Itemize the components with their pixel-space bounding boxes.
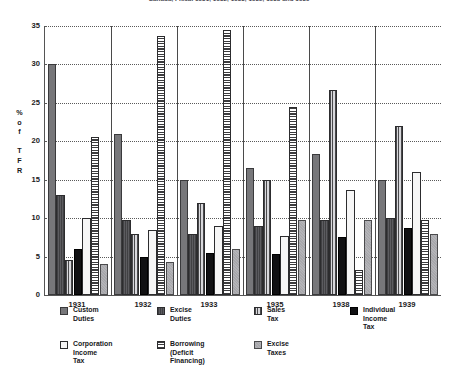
legend-label: Borrowing (Deficit Financing) [170, 340, 205, 366]
bar [289, 107, 297, 295]
bar [100, 264, 108, 295]
bar [131, 234, 139, 295]
bar-group [309, 26, 375, 295]
legend-label: Corporation Income Tax [73, 340, 112, 366]
y-axis-tick-label: 5 [20, 253, 40, 260]
bar [74, 249, 82, 295]
y-axis-label-char: f [14, 127, 25, 137]
bar-group [111, 26, 177, 295]
bar [378, 180, 386, 295]
bar [280, 236, 288, 295]
bar [329, 90, 337, 295]
bar [140, 257, 148, 295]
bar-group [243, 26, 309, 295]
bar [56, 195, 64, 295]
legend-label: Individual Income Tax [363, 306, 395, 332]
bar [395, 126, 403, 295]
bar [114, 134, 122, 295]
bar [122, 220, 130, 295]
bar [254, 226, 262, 295]
bar [263, 180, 271, 295]
y-axis-label-char: o [14, 118, 25, 128]
bar [157, 36, 165, 295]
bar [188, 234, 196, 295]
legend-swatch [60, 341, 68, 349]
legend-row-primary: Custom DutiesExcise DutiesSales TaxIndiv… [60, 306, 452, 328]
legend-swatch [254, 307, 262, 315]
bar [223, 30, 231, 295]
legend-label: Excise Duties [170, 306, 192, 323]
y-axis-tick-label: 20 [20, 137, 40, 144]
chart-title: Canada, Fiscal 1931, 1932, 1933, 1935, 1… [0, 0, 458, 2]
legend-swatch [254, 341, 262, 349]
legend-swatch [350, 307, 358, 315]
y-axis-tick-label: 35 [20, 22, 40, 29]
legend-label: Custom Duties [73, 306, 99, 323]
legend-swatch [157, 341, 165, 349]
y-axis-tick-label: 30 [20, 60, 40, 67]
bar-group [177, 26, 243, 295]
bar [180, 180, 188, 295]
legend-label: Excise Taxes [267, 340, 289, 357]
legend-row-secondary: Corporation Income TaxBorrowing (Deficit… [60, 340, 452, 362]
bar-chart: Canada, Fiscal 1931, 1932, 1933, 1935, 1… [0, 0, 458, 391]
y-axis-tick-label: 0 [20, 291, 40, 298]
bar [386, 218, 394, 295]
bar [82, 218, 90, 295]
bar [412, 172, 420, 295]
bar [364, 220, 372, 295]
bar [91, 137, 99, 295]
bar-group [45, 26, 111, 295]
bar [272, 254, 280, 295]
bar [65, 260, 73, 295]
legend-label: Sales Tax [267, 306, 285, 323]
bar [404, 228, 412, 295]
bar [320, 220, 328, 295]
bar [298, 220, 306, 295]
bar [338, 237, 346, 295]
bar [206, 253, 214, 295]
bar [166, 262, 174, 295]
y-axis-label-char: F [14, 156, 25, 166]
bar [232, 249, 240, 295]
bar [148, 230, 156, 295]
y-axis-tick-label: 15 [20, 176, 40, 183]
y-axis-label-char: T [14, 146, 25, 156]
bar-group [375, 26, 441, 295]
legend-swatch [157, 307, 165, 315]
y-axis-tick-label: 25 [20, 99, 40, 106]
bar [214, 226, 222, 295]
bar [421, 220, 429, 295]
bar [246, 168, 254, 295]
bar [430, 234, 438, 295]
bar [346, 190, 354, 295]
y-axis-tick-label: 10 [20, 214, 40, 221]
bar [355, 270, 363, 295]
bar [312, 154, 320, 295]
plot-area [44, 26, 441, 296]
y-axis-label-char: R [14, 166, 25, 176]
bar [197, 203, 205, 295]
bar [48, 64, 56, 295]
legend-swatch [60, 307, 68, 315]
y-axis-label-char: % [14, 108, 25, 118]
